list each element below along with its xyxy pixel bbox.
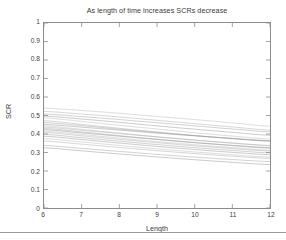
- y-tick-label: 0.6: [16, 94, 40, 101]
- x-tick-label: 8: [109, 212, 129, 219]
- x-tick-label: 11: [223, 212, 243, 219]
- axis-ticks: [44, 23, 270, 208]
- x-tick-label: 9: [147, 212, 167, 219]
- y-tick-label: 0.8: [16, 56, 40, 63]
- data-curve: [44, 121, 270, 142]
- y-tick-label: 0.7: [16, 75, 40, 82]
- x-tick-label: 10: [185, 212, 205, 219]
- y-tick-label: 0.2: [16, 168, 40, 175]
- x-tick-label: 7: [71, 212, 91, 219]
- y-tick-label: 0.5: [16, 112, 40, 119]
- y-axis-label: SCR: [4, 92, 13, 132]
- figure-bottom-rule: [0, 232, 286, 233]
- y-axis-tick-labels: 00.10.20.30.40.50.60.70.80.91: [12, 22, 40, 209]
- plot-svg: [44, 23, 270, 208]
- x-tick-label: 12: [261, 212, 281, 219]
- chart-title: As length of time increases SCRs decreas…: [43, 6, 271, 15]
- data-curves: [44, 108, 270, 164]
- x-tick-label: 6: [33, 212, 53, 219]
- y-tick-label: 0.9: [16, 37, 40, 44]
- y-tick-label: 0.1: [16, 187, 40, 194]
- data-curve: [44, 131, 270, 150]
- y-tick-label: 0.3: [16, 150, 40, 157]
- y-tick-label: 0.4: [16, 131, 40, 138]
- data-curve: [44, 108, 270, 126]
- plot-area: [43, 22, 271, 209]
- figure-canvas: As length of time increases SCRs decreas…: [0, 0, 286, 240]
- data-curve: [44, 128, 270, 148]
- data-curve: [44, 118, 270, 139]
- y-tick-label: 1: [16, 19, 40, 26]
- x-axis-tick-labels: 6789101112: [43, 212, 271, 222]
